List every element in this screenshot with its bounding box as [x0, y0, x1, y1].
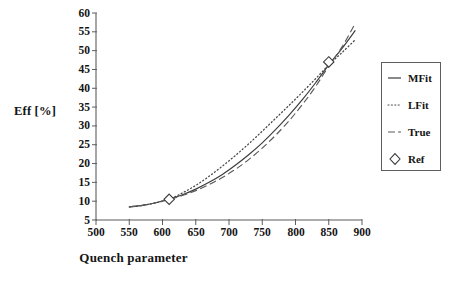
data-series — [129, 23, 355, 207]
series-line-true — [129, 23, 355, 207]
ref-diamond-marker-1 — [164, 194, 174, 204]
legend-line-dashed-icon — [386, 125, 406, 139]
legend-label-lfit: LFit — [408, 99, 429, 111]
legend-diamond-marker-icon — [386, 152, 406, 166]
chart-figure: Eff [%] 60 55 50 45 40 35 30 25 20 15 10… — [0, 0, 451, 284]
legend-item-ref[interactable]: Ref — [382, 149, 442, 169]
x-axis-title: Quench parameter — [0, 250, 451, 266]
x-axis-title-text: Quench parameter — [79, 250, 187, 266]
series-line-mfit — [129, 30, 355, 207]
series-line-lfit — [129, 40, 355, 207]
legend-label-mfit: MFit — [408, 72, 432, 84]
legend-label-ref: Ref — [408, 153, 425, 165]
legend-item-lfit[interactable]: LFit — [382, 95, 442, 115]
legend-item-true[interactable]: True — [382, 122, 442, 142]
legend-label-true: True — [408, 126, 430, 138]
ref-markers — [164, 57, 334, 205]
legend-line-dotted-icon — [386, 98, 406, 112]
legend-line-solid-icon — [386, 71, 406, 85]
legend-item-mfit[interactable]: MFit — [382, 68, 442, 88]
ref-diamond-marker-2 — [324, 57, 334, 67]
axis-lines — [96, 13, 362, 220]
legend: MFit LFit True Ref — [381, 62, 441, 171]
